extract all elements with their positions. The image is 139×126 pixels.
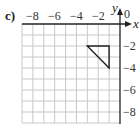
y-axis-arrow-icon <box>117 8 123 15</box>
x-tick-label: −4 <box>70 9 83 23</box>
origin-label: 0 <box>124 7 130 21</box>
x-tick-label: −2 <box>92 9 105 23</box>
part-label: c) <box>5 8 15 23</box>
y-tick-label: −4 <box>123 61 136 75</box>
x-axis-arrow-icon <box>125 21 132 27</box>
y-tick-label: −2 <box>123 39 136 53</box>
x-tick-label: −6 <box>48 9 61 23</box>
x-axis-name: x <box>132 16 139 31</box>
y-tick-label: −8 <box>123 105 136 119</box>
y-axis-name: y <box>110 0 118 15</box>
x-tick-label: −8 <box>26 9 39 23</box>
grid-lines <box>22 24 120 123</box>
y-tick-label: −6 <box>123 83 136 97</box>
coordinate-grid-figure: c) −8 −6 −4 −2 0 y x −2 −4 −6 −8 <box>0 0 139 126</box>
